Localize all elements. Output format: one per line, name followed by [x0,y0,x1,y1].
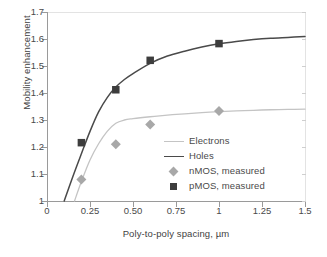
data-point-marker [146,57,154,65]
legend-square-swatch-pmos [163,180,185,192]
y-tick-mark-right [302,39,306,40]
legend-label-nmos-measured: nMOS, measured [185,165,265,176]
data-point-marker [111,139,121,149]
y-tick-mark-right [302,12,306,13]
x-tick-label: 0.75 [154,206,198,216]
data-point-marker [76,174,86,184]
legend-line-swatch-electrons [163,135,185,147]
y-tick-label: 1.3 [4,115,44,125]
data-point-marker [215,40,223,48]
data-point-marker [112,86,120,94]
y-tick-mark-right [302,120,306,121]
y-tick-label: 1 [4,196,44,206]
y-tick-mark-right [302,66,306,67]
y-tick-mark-right [302,93,306,94]
legend-label-pmos-measured: pMOS, measured [185,180,265,191]
legend-diamond-swatch-nmos [163,165,185,177]
y-tick-label: 1.7 [4,7,44,17]
series-markers-pmos [78,40,223,147]
y-axis-line [47,12,48,202]
y-tick-label: 1.6 [4,34,44,44]
y-tick-label: 1.2 [4,142,44,152]
x-tick-label: 1 [197,206,241,216]
x-tick-label: 0 [25,206,69,216]
x-tick-label: 1.25 [240,206,284,216]
legend-label-holes: Holes [185,150,214,161]
data-point-marker [214,106,224,116]
y-tick-label: 1.1 [4,169,44,179]
x-tick-label: 1.5 [283,206,327,216]
legend-item-holes: Holes [163,148,288,163]
legend-label-electrons: Electrons [185,135,230,146]
plot-frame-top [47,12,306,13]
legend-item-pmos-measured: pMOS, measured [163,178,288,193]
y-tick-mark-right [302,147,306,148]
chart-legend: Electrons Holes nMOS, measured pMOS, mea… [163,133,288,193]
x-tick-label: 0.25 [68,206,112,216]
y-tick-label: 1.4 [4,88,44,98]
x-tick-label: 0.50 [111,206,155,216]
legend-line-swatch-holes [163,150,185,162]
y-tick-label: 1.5 [4,61,44,71]
x-axis-title: Poly-to-poly spacing, µm [47,228,305,239]
legend-item-electrons: Electrons [163,133,288,148]
mobility-enhancement-chart: Mobility enhancement Poly-to-poly spacin… [0,0,327,257]
data-point-marker [145,120,155,130]
series-layer [0,0,327,257]
y-tick-mark-right [302,174,306,175]
data-point-marker [78,139,86,147]
legend-item-nmos-measured: nMOS, measured [163,163,288,178]
